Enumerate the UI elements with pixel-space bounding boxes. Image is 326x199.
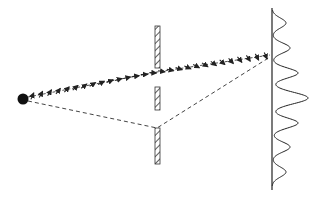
phasor-arrow-icon xyxy=(193,64,199,67)
light-source-dot xyxy=(18,94,29,105)
dashed-path-lower-slit xyxy=(28,57,270,128)
intensity-pattern-curve xyxy=(272,10,308,186)
phasor-arrow-icon xyxy=(107,80,113,83)
source-dot-icon xyxy=(18,94,29,105)
barrier-segment-3 xyxy=(155,128,160,164)
double-slit-diagram xyxy=(0,0,326,199)
phasor-arrow-icon xyxy=(124,77,131,79)
phasor-baseline xyxy=(28,55,270,97)
slit-barrier xyxy=(155,26,160,164)
barrier-segment-2 xyxy=(155,87,160,110)
phasor-arrow-icon xyxy=(115,78,122,80)
phasor-arrow-icon xyxy=(132,76,139,77)
phasor-arrow-icon xyxy=(98,81,104,84)
phasor-arrow-icon xyxy=(158,71,165,72)
phasor-arrow-path xyxy=(28,52,270,99)
dashed-ray-paths xyxy=(28,57,270,128)
intensity-curve xyxy=(272,10,308,186)
barrier-segment-1 xyxy=(155,26,160,68)
diagram-canvas xyxy=(0,0,326,199)
